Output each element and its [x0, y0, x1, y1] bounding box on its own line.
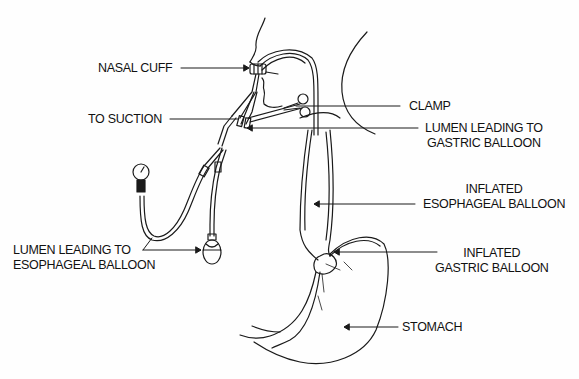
- label-stomach: STOMACH: [402, 320, 462, 335]
- diagram-canvas: NASAL CUFF TO SUCTION CLAMP LUMEN LEADIN…: [0, 0, 579, 379]
- nasal-cuff: [250, 64, 278, 74]
- nasal-tube-arc: [258, 50, 318, 135]
- label-inflated-esophageal-balloon: INFLATED ESOPHAGEAL BALLOON: [423, 182, 565, 212]
- label-to-suction: TO SUCTION: [88, 112, 162, 127]
- leader-lines: [143, 65, 437, 330]
- label-clamp: CLAMP: [409, 99, 451, 114]
- inflation-bulb: [203, 240, 221, 264]
- tube-branches: [218, 74, 302, 146]
- label-nasal-cuff: NASAL CUFF: [98, 61, 172, 76]
- pressure-gauge: [133, 164, 149, 192]
- head-outline: [342, 32, 375, 134]
- gastric-balloon: [314, 254, 336, 274]
- label-inflated-gastric-balloon: INFLATED GASTRIC BALLOON: [435, 246, 549, 276]
- label-lumen-gastric: LUMEN LEADING TO GASTRIC BALLOON: [425, 121, 543, 151]
- esophagus: [300, 130, 333, 260]
- lower-tube-branches: [140, 148, 226, 241]
- label-lumen-esophageal: LUMEN LEADING TO ESOPHAGEAL BALLOON: [13, 243, 155, 273]
